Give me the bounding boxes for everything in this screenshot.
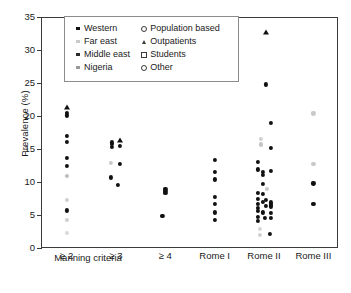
data-point — [258, 227, 262, 231]
data-point — [109, 161, 113, 165]
data-point — [109, 175, 113, 179]
legend-label: Middle east — [84, 48, 138, 61]
data-point — [261, 192, 265, 196]
legend-open-square-icon — [141, 52, 147, 58]
data-point — [263, 216, 267, 220]
data-point — [265, 187, 269, 191]
data-point — [269, 121, 273, 125]
y-tick-label: 10 — [24, 177, 35, 187]
legend-filled-triangle-icon — [142, 40, 146, 44]
legend: WesternPopulation basedFar eastOutpatien… — [64, 16, 239, 82]
data-point — [269, 204, 273, 208]
y-tick-label: 15 — [24, 144, 35, 154]
data-point — [160, 214, 164, 218]
data-point — [163, 191, 167, 195]
legend-marker-cell — [138, 48, 150, 61]
data-point — [311, 202, 315, 206]
legend-open-circle-icon — [141, 26, 147, 32]
data-point — [269, 211, 273, 215]
data-point — [256, 209, 260, 213]
data-point — [65, 156, 69, 160]
legend-square-icon — [76, 66, 79, 69]
y-tick-mark — [37, 17, 42, 18]
data-point — [256, 190, 260, 194]
data-point — [256, 167, 260, 171]
legend-label: Students — [150, 48, 232, 61]
data-point — [213, 158, 217, 162]
data-point — [261, 210, 265, 214]
legend-row: Far eastOutpatients — [72, 35, 232, 48]
legend-marker-cell — [138, 61, 150, 74]
data-point — [264, 82, 268, 86]
y-tick-label: 35 — [24, 12, 35, 22]
legend-marker-cell — [72, 22, 84, 35]
y-tick-mark — [37, 50, 42, 51]
data-point — [213, 177, 217, 181]
y-tick-mark — [37, 116, 42, 117]
legend-square-icon — [76, 40, 79, 43]
x-tick-label: Rome I — [199, 251, 230, 261]
data-point — [264, 204, 268, 208]
data-point — [65, 198, 69, 202]
y-tick-mark — [37, 83, 42, 84]
y-tick-label: 5 — [30, 210, 35, 220]
legend-label: Nigeria — [84, 61, 138, 74]
data-point — [110, 145, 114, 149]
data-point — [269, 169, 273, 173]
data-point — [65, 140, 69, 144]
data-point — [213, 194, 217, 198]
data-point — [263, 29, 269, 34]
data-point — [65, 218, 69, 222]
legend-row: WesternPopulation based — [72, 22, 232, 35]
legend-marker-cell — [138, 35, 150, 48]
data-point — [311, 111, 315, 115]
data-point — [65, 208, 69, 212]
legend-label: Western — [84, 22, 138, 35]
data-point — [268, 232, 272, 236]
data-point — [116, 183, 120, 187]
y-tick-mark — [37, 182, 42, 183]
data-point — [259, 142, 263, 146]
data-point — [65, 174, 69, 178]
data-point — [269, 146, 273, 150]
x-tick-label: Rome III — [295, 251, 331, 261]
data-point — [117, 137, 123, 142]
data-point — [213, 202, 217, 206]
data-point — [118, 161, 122, 165]
x-axis-group-title: Manning criteria — [54, 252, 122, 263]
data-point — [259, 137, 263, 141]
legend-label: Population based — [150, 22, 232, 35]
data-point — [118, 144, 122, 148]
scatter-plot-figure: Prevalence (%) 05101520253035 ≥ 2≥ 3≥ 4R… — [0, 0, 351, 293]
y-tick-mark — [37, 149, 42, 150]
y-tick-label: 0 — [30, 243, 35, 253]
data-point — [256, 160, 260, 164]
data-point — [65, 134, 69, 138]
data-point — [65, 113, 69, 117]
legend-marker-cell — [72, 61, 84, 74]
x-tick-label: ≥ 4 — [159, 251, 172, 261]
data-point — [261, 182, 265, 186]
y-tick-mark — [37, 215, 42, 216]
legend-row: Middle eastStudents — [72, 48, 232, 61]
y-tick-label: 25 — [24, 78, 35, 88]
data-point — [213, 218, 217, 222]
legend-marker-cell — [72, 48, 84, 61]
data-point — [213, 210, 217, 214]
y-tick-mark — [37, 248, 42, 249]
legend-table: WesternPopulation basedFar eastOutpatien… — [72, 22, 232, 74]
legend-square-icon — [76, 27, 79, 30]
data-point — [64, 104, 70, 109]
legend-open-circle-small-icon — [141, 65, 147, 71]
data-point — [261, 173, 265, 177]
data-point — [256, 197, 260, 201]
data-point — [65, 163, 69, 167]
legend-row: NigeriaOther — [72, 61, 232, 74]
y-tick-label: 30 — [24, 45, 35, 55]
data-point — [311, 161, 315, 165]
data-point — [311, 181, 315, 185]
data-point — [65, 231, 69, 235]
legend-label: Far east — [84, 35, 138, 48]
legend-marker-cell — [138, 22, 150, 35]
legend-square-icon — [76, 53, 79, 56]
